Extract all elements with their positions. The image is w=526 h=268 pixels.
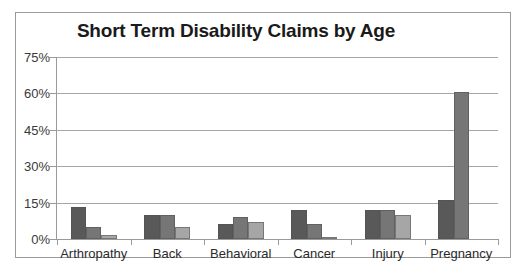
bar [307, 224, 322, 239]
bar [291, 210, 306, 239]
y-axis-tick-label: 30% [16, 159, 50, 174]
y-axis-tick [49, 166, 57, 167]
y-axis-tick [49, 130, 57, 131]
bar [101, 235, 116, 239]
bar-group [351, 57, 425, 239]
bar [438, 200, 453, 239]
y-axis-tick [49, 93, 57, 94]
x-axis-category-label: Back [131, 246, 205, 261]
bar [322, 237, 337, 239]
bar [395, 215, 410, 239]
x-axis-category-label: Cancer [278, 246, 352, 261]
bar [365, 210, 380, 239]
bar [71, 207, 86, 239]
x-axis-tick [498, 239, 499, 245]
y-axis-tick [49, 57, 57, 58]
x-axis-category-label: Behavioral [204, 246, 278, 261]
bar [175, 227, 190, 239]
y-axis-tick-label: 45% [16, 122, 50, 137]
x-axis-category-label: Pregnancy [425, 246, 499, 261]
bar [233, 217, 248, 239]
x-axis-tick [278, 239, 279, 245]
x-axis-tick [204, 239, 205, 245]
bar [454, 92, 469, 239]
x-axis-tick [425, 239, 426, 245]
x-axis-tick [351, 239, 352, 245]
bar [218, 224, 233, 239]
x-axis-category-label: Arthropathy [57, 246, 131, 261]
bar [86, 227, 101, 239]
y-axis-labels: 0%15%30%45%60%75% [16, 13, 50, 259]
bar [380, 210, 395, 239]
x-axis-category-label: Injury [351, 246, 425, 261]
bar-group [425, 57, 499, 239]
bar [160, 215, 175, 239]
y-axis-tick-label: 0% [16, 232, 50, 247]
bar-group [278, 57, 352, 239]
bar-group [204, 57, 278, 239]
category-axis-line [49, 239, 499, 240]
y-axis-tick [49, 203, 57, 204]
x-axis-tick [57, 239, 58, 245]
bar-group [131, 57, 205, 239]
y-axis-tick-label: 75% [16, 50, 50, 65]
y-axis-tick-label: 15% [16, 195, 50, 210]
bar [144, 215, 159, 239]
chart-container: Short Term Disability Claims by Age 0%15… [15, 12, 511, 258]
x-axis-tick [131, 239, 132, 245]
y-axis-tick-label: 60% [16, 86, 50, 101]
chart-title: Short Term Disability Claims by Age [16, 20, 456, 42]
y-axis-tick [49, 239, 57, 240]
bar [248, 222, 263, 239]
bar-group [57, 57, 131, 239]
plot-area [57, 57, 498, 239]
